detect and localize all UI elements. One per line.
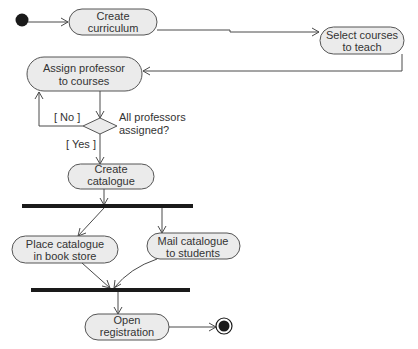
flow-join-to-open-registration — [114, 292, 122, 314]
flow-select-courses-to-assign-professor — [143, 54, 402, 75]
join-bar — [31, 288, 190, 292]
action-label-line1: Place catalogue — [26, 238, 104, 250]
action-assign-professor[interactable]: Assign professor to courses — [27, 57, 142, 91]
action-open-registration[interactable]: Open registration — [85, 314, 169, 340]
final-node — [216, 318, 232, 334]
guard-yes: [ Yes ] — [66, 138, 96, 150]
action-label-line2: in book store — [34, 250, 97, 262]
flow-assign-professor-to-decision — [96, 91, 104, 118]
guard-no: [ No ] — [54, 111, 80, 123]
action-create-curriculum[interactable]: Create curriculum — [69, 9, 157, 35]
flow-fork-to-mail-catalogue — [158, 208, 166, 233]
action-label-line1: Assign professor — [43, 62, 125, 74]
initial-node — [16, 14, 29, 27]
action-label-line2: to students — [166, 247, 220, 259]
flow-initial-to-create-curriculum — [28, 18, 68, 26]
decision-question-line2: assigned? — [119, 124, 169, 136]
action-mail-catalogue[interactable]: Mail catalogue to students — [147, 233, 240, 259]
fork-bar — [22, 204, 193, 208]
action-label-line1: Select courses — [326, 29, 399, 41]
action-label-line1: Create — [94, 163, 127, 175]
action-select-courses[interactable]: Select courses to teach — [320, 27, 404, 54]
flow-decision-yes — [96, 134, 104, 164]
flow-open-registration-to-final — [169, 323, 216, 331]
flow-mail-catalogue-to-join — [114, 259, 157, 288]
action-label-line1: Create — [96, 10, 129, 22]
action-label-line2: curriculum — [88, 22, 139, 34]
activity-diagram: Create curriculum Select courses to teac… — [0, 0, 418, 349]
action-label-line1: Mail catalogue — [158, 235, 229, 247]
action-label-line2: catalogue — [87, 175, 135, 187]
action-create-catalogue[interactable]: Create catalogue — [68, 163, 154, 189]
action-label-line2: registration — [100, 326, 154, 338]
action-label-line1: Open — [114, 314, 141, 326]
flow-create-catalogue-to-fork — [100, 189, 108, 205]
flow-create-curriculum-to-select-courses — [157, 28, 319, 36]
action-place-catalogue[interactable]: Place catalogue in book store — [12, 236, 118, 263]
flow-place-catalogue-to-join — [82, 263, 110, 288]
flow-fork-to-place-catalogue — [78, 208, 104, 236]
action-label-line2: to courses — [59, 75, 110, 87]
action-label-line2: to teach — [342, 41, 381, 53]
decision-node — [83, 118, 117, 134]
decision-question-line1: All professors — [119, 111, 186, 123]
